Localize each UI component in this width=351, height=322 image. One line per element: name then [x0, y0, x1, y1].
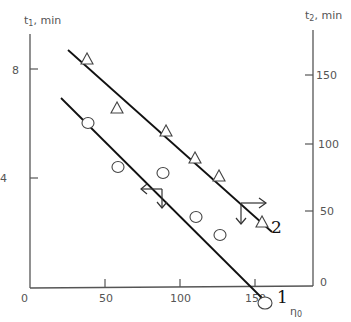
x-tick-label-100: 100: [170, 292, 191, 305]
triangle-marker: [256, 216, 268, 227]
triangle-marker: [111, 102, 123, 113]
y-right-tick-label-0: 0: [320, 276, 327, 289]
triangle-marker: [160, 125, 172, 136]
series-1-axis-arrows: [141, 184, 167, 208]
y-left-axis-title: t1, min: [24, 14, 61, 28]
circle-marker: [112, 162, 124, 173]
x-tick-label-50: 50: [99, 292, 113, 305]
circle-marker: [157, 168, 169, 179]
series-2-markers: [81, 53, 268, 227]
triangle-marker: [189, 152, 201, 163]
circle-marker: [82, 118, 94, 129]
y-left-tick-label-8: 8: [12, 64, 19, 77]
x-tick-label-0: 0: [21, 292, 28, 305]
x-axis: [30, 286, 313, 288]
x-axis-title: η0: [290, 305, 302, 319]
y-right-tick-label-150: 150: [316, 69, 337, 82]
y-right-tick-label-50: 50: [320, 205, 334, 218]
circle-marker: [190, 212, 202, 223]
triangle-marker: [81, 53, 93, 64]
y-left-tick-label-4: 4: [0, 172, 7, 185]
chart-canvas: 0 50 100 150 8 4 150 100 50 0 t1, min t2…: [0, 0, 351, 322]
series-2-label: 2: [271, 217, 282, 237]
circle-marker: [214, 230, 226, 241]
y-right-tick-label-100: 100: [318, 138, 339, 151]
series-1-label: 1: [277, 287, 288, 307]
circle-marker: [258, 297, 272, 309]
triangle-marker: [213, 170, 225, 181]
y-right-axis-title: t2, min: [305, 9, 342, 23]
